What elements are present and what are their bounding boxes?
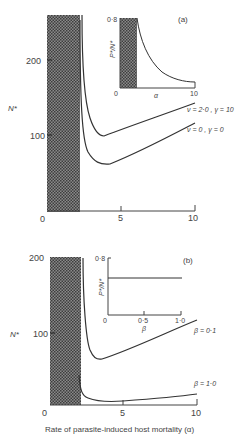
series-label-b2: β = 1·0	[193, 380, 216, 388]
y-axis-label-b: N*	[10, 330, 20, 339]
panel-b: 0 5 10 200 100 N* (b) Rate of parasite-i…	[10, 253, 216, 434]
inset-b-xlabel: β	[141, 325, 146, 333]
x-tick-10-b: 10	[191, 408, 201, 418]
inset-a-ylabel: P*/N*	[109, 41, 116, 58]
x-tick-0-b: 0	[42, 408, 47, 418]
shaded-region-a	[47, 15, 80, 212]
inset-b-ylabel: P*/N*	[98, 279, 105, 296]
inset-b-ytick: 0·8	[95, 255, 105, 262]
inset-a-xlabel: α	[154, 92, 159, 99]
y-tick-200-a: 200	[26, 56, 41, 66]
x-tick-5-b: 5	[120, 408, 125, 418]
panel-label-a: (a)	[178, 15, 188, 24]
shaded-region-b	[50, 257, 81, 405]
inset-a-ytick: 0·8	[107, 16, 117, 23]
inset-a-xtick-0: 0	[114, 90, 118, 97]
inset-b-xtick-05: 0·5	[138, 317, 148, 324]
x-tick-5-a: 5	[118, 213, 123, 223]
inset-b-xtick-10: 1·0	[175, 317, 185, 324]
curve-beta-0-1	[83, 258, 197, 359]
series-label-a1: ν = 2·0 , γ = 10	[187, 106, 234, 114]
figure: 0 5 10 200 100 N* (a) ν = 2·0 , γ = 10 ν…	[0, 0, 245, 439]
x-axis-label-b: Rate of parasite-induced host mortality …	[45, 425, 194, 434]
curve-beta-1-0	[79, 375, 197, 402]
x-tick-10-a: 10	[188, 213, 198, 223]
panel-label-b: (b)	[183, 256, 193, 265]
x-tick-0-a: 0	[40, 214, 45, 224]
inset-a: 0·8 0 10 α P*/N*	[107, 16, 198, 99]
y-axis-label-a: N*	[8, 104, 18, 113]
curve-nu0-gamma0	[80, 20, 195, 164]
inset-a-xtick-10: 10	[190, 90, 198, 97]
y-tick-100-b: 100	[33, 329, 48, 339]
curve-nu2-gamma10	[82, 15, 195, 136]
y-tick-100-a: 100	[30, 131, 45, 141]
inset-b: 0·8 0 0·5 1·0 β P*/N*	[95, 255, 185, 333]
series-label-b1: β = 0·1	[193, 327, 216, 335]
y-tick-200-b: 200	[29, 253, 44, 263]
panel-a: 0 5 10 200 100 N* (a) ν = 2·0 , γ = 10 ν…	[8, 15, 234, 224]
inset-b-xtick-0: 0	[103, 317, 107, 324]
series-label-a2: ν = 0 , γ = 0	[187, 126, 224, 134]
